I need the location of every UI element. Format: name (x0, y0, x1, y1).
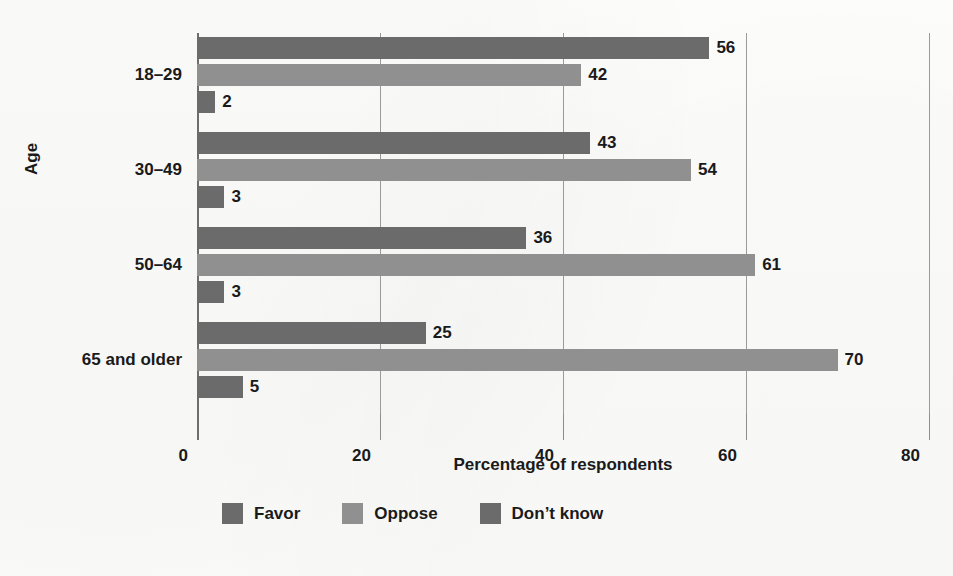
axis-tick-20 (380, 414, 381, 440)
bar-value-label: 54 (698, 159, 717, 181)
axis-tick-80 (929, 414, 930, 440)
bar-value-label: 36 (533, 227, 552, 249)
legend-item[interactable]: Oppose (342, 503, 437, 524)
category-axis-labels: 18–2930–4950–6465 and older (0, 33, 182, 414)
legend-label: Oppose (374, 504, 437, 524)
legend-label: Don’t know (512, 504, 604, 524)
legend-item[interactable]: Favor (222, 503, 300, 524)
bar-value-label: 42 (588, 64, 607, 86)
gridline-80 (929, 33, 930, 414)
category-label: 18–29 (135, 65, 182, 85)
legend-item[interactable]: Don’t know (480, 503, 604, 524)
legend-swatch-icon (342, 503, 363, 524)
bar-favor-2 (197, 227, 526, 249)
bar-dontknow-0 (197, 91, 215, 113)
bar-value-label: 25 (433, 322, 452, 344)
axis-tick-60 (746, 414, 747, 440)
legend-swatch-icon (480, 503, 501, 524)
bar-value-label: 3 (231, 186, 240, 208)
axis-tick-label-0: 0 (179, 446, 197, 466)
y-axis-title: Age (22, 143, 42, 175)
bar-value-label: 61 (762, 254, 781, 276)
x-axis-title: Percentage of respondents (197, 455, 929, 475)
bar-favor-0 (197, 37, 709, 59)
bar-dontknow-1 (197, 186, 224, 208)
category-label: 50–64 (135, 255, 182, 275)
bar-dontknow-2 (197, 281, 224, 303)
bar-favor-3 (197, 322, 426, 344)
axis-tick-0 (197, 414, 199, 440)
legend-swatch-icon (222, 503, 243, 524)
bar-value-label: 70 (845, 349, 864, 371)
category-label: 65 and older (82, 350, 182, 370)
bar-dontknow-3 (197, 376, 243, 398)
bar-oppose-3 (197, 349, 838, 371)
bar-value-label: 56 (716, 37, 735, 59)
plot-area: 02040608056422435433661325705 (197, 33, 929, 414)
grouped-bar-chart: 18–2930–4950–6465 and older Age 02040608… (0, 0, 953, 576)
bar-value-label: 2 (222, 91, 231, 113)
bar-oppose-0 (197, 64, 581, 86)
bar-oppose-2 (197, 254, 755, 276)
axis-tick-40 (563, 414, 564, 440)
legend-label: Favor (254, 504, 300, 524)
bar-value-label: 3 (231, 281, 240, 303)
bar-favor-1 (197, 132, 590, 154)
bar-oppose-1 (197, 159, 691, 181)
chart-legend: FavorOpposeDon’t know (197, 503, 953, 524)
category-label: 30–49 (135, 160, 182, 180)
bar-value-label: 5 (250, 376, 259, 398)
bar-value-label: 43 (597, 132, 616, 154)
